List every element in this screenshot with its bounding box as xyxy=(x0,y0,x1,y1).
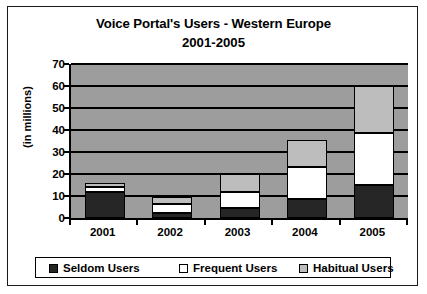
legend-label: Frequent Users xyxy=(193,262,277,274)
bar-segment-frequent-users-2004[interactable] xyxy=(287,167,327,199)
x-tick-mark xyxy=(204,219,206,225)
x-axis-tick-labels: 20012002200320042005 xyxy=(69,226,408,244)
bar-segment-seldom-users-2001[interactable] xyxy=(85,192,125,218)
x-tick-mark xyxy=(136,219,138,225)
legend-label: Seldom Users xyxy=(63,262,140,274)
chart-frame: Voice Portal's Users - Western Europe 20… xyxy=(7,6,418,286)
legend-swatch-icon xyxy=(49,264,58,273)
x-tick-label-2001: 2001 xyxy=(73,226,133,238)
legend-entry-habitual-users[interactable]: Habitual Users xyxy=(299,261,394,275)
y-tick-label: 60 xyxy=(35,81,65,91)
legend-swatch-icon xyxy=(179,264,188,273)
y-tick-label: 40 xyxy=(35,125,65,135)
bar-segment-frequent-users-2002[interactable] xyxy=(152,204,192,213)
legend-entry-frequent-users[interactable]: Frequent Users xyxy=(179,261,277,275)
bar-segment-frequent-users-2005[interactable] xyxy=(354,133,394,185)
y-tick-label: 70 xyxy=(35,59,65,69)
y-axis-tick-labels: 010203040506070 xyxy=(30,64,65,218)
bar-segment-frequent-users-2001[interactable] xyxy=(85,187,125,191)
bar-segment-seldom-users-2005[interactable] xyxy=(354,185,394,218)
gridline xyxy=(71,63,408,65)
bar-2001[interactable] xyxy=(85,183,125,218)
bar-2005[interactable] xyxy=(354,86,394,218)
bar-segment-frequent-users-2003[interactable] xyxy=(220,192,260,209)
bar-segment-habitual-users-2001[interactable] xyxy=(85,183,125,187)
x-tick-label-2004: 2004 xyxy=(275,226,335,238)
bar-segment-habitual-users-2004[interactable] xyxy=(287,140,327,168)
y-tick-label: 0 xyxy=(35,213,65,223)
legend-label: Habitual Users xyxy=(313,262,394,274)
legend-entry-seldom-users[interactable]: Seldom Users xyxy=(49,261,140,275)
bar-segment-habitual-users-2005[interactable] xyxy=(354,86,394,133)
y-tick-label: 50 xyxy=(35,103,65,113)
y-tick-label: 20 xyxy=(35,169,65,179)
bar-segment-seldom-users-2004[interactable] xyxy=(287,199,327,218)
x-tick-label-2002: 2002 xyxy=(140,226,200,238)
legend-swatch-icon xyxy=(299,264,308,273)
plot-area xyxy=(69,64,408,220)
bar-2004[interactable] xyxy=(287,140,327,218)
bar-segment-seldom-users-2002[interactable] xyxy=(152,213,192,219)
y-tick-label: 30 xyxy=(35,147,65,157)
bar-segment-seldom-users-2003[interactable] xyxy=(220,208,260,218)
x-tick-label-2005: 2005 xyxy=(342,226,402,238)
x-tick-mark xyxy=(339,219,341,225)
chart-legend: Seldom UsersFrequent UsersHabitual Users xyxy=(35,257,391,278)
x-tick-mark xyxy=(271,219,273,225)
y-tick-label: 10 xyxy=(35,191,65,201)
chart-title: Voice Portal's Users - Western Europe xyxy=(8,16,419,31)
bar-segment-habitual-users-2003[interactable] xyxy=(220,174,260,192)
chart-subtitle: 2001-2005 xyxy=(8,35,419,50)
x-tick-mark xyxy=(406,219,408,225)
bar-2003[interactable] xyxy=(220,174,260,218)
bar-segment-habitual-users-2002[interactable] xyxy=(152,197,192,204)
x-tick-label-2003: 2003 xyxy=(208,226,268,238)
x-tick-mark xyxy=(69,219,71,225)
bar-2002[interactable] xyxy=(152,197,192,218)
